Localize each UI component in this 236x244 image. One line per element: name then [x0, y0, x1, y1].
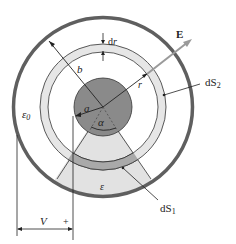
label-eps0: ε0 [22, 108, 30, 122]
ds2-leader [164, 84, 200, 95]
label-a: a [84, 102, 90, 114]
label-alpha: α [98, 116, 104, 128]
label-r: r [138, 79, 142, 90]
label-dS2: dS2 [205, 76, 221, 90]
label-E: E [176, 28, 183, 40]
arrowhead-b [49, 41, 55, 47]
label-dr-d: dr [108, 36, 117, 47]
coax-capacitor-diagram: E dr b r a α ε0 ε dS2 dS1 V + [0, 0, 236, 244]
label-plus: + [63, 216, 69, 227]
label-eps: ε [100, 181, 104, 192]
label-b: b [77, 63, 83, 75]
label-dS1: dS1 [160, 202, 176, 216]
label-V: V [40, 215, 48, 227]
